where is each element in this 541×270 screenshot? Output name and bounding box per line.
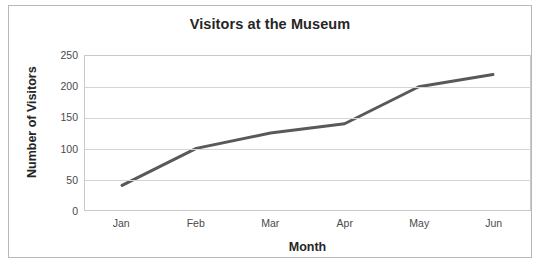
- x-tick-label: Mar: [240, 217, 300, 229]
- x-axis-tick-labels: JanFebMarAprMayJun: [84, 217, 531, 233]
- y-tick-label: 250: [38, 49, 78, 61]
- x-axis-title: Month: [84, 240, 531, 254]
- x-tick-label: Jun: [464, 217, 524, 229]
- y-tick-label: 0: [38, 205, 78, 217]
- y-tick-label: 100: [38, 143, 78, 155]
- line-series: [85, 56, 530, 210]
- x-tick-label: Apr: [315, 217, 375, 229]
- gridline-horizontal: [85, 180, 530, 181]
- gridline-horizontal: [85, 149, 530, 150]
- y-tick-label: 200: [38, 80, 78, 92]
- gridline-horizontal: [85, 87, 530, 88]
- plot-area: [84, 55, 531, 211]
- gridline-horizontal: [85, 212, 530, 213]
- x-tick-label: May: [389, 217, 449, 229]
- gridline-horizontal: [85, 56, 530, 57]
- x-tick-label: Jan: [91, 217, 151, 229]
- y-tick-label: 150: [38, 111, 78, 123]
- y-tick-label: 50: [38, 174, 78, 186]
- x-tick-label: Feb: [166, 217, 226, 229]
- y-axis-tick-labels: 050100150200250: [34, 55, 78, 211]
- chart-title: Visitors at the Museum: [9, 16, 531, 32]
- chart-page-frame: Visitors at the Museum Number of Visitor…: [8, 5, 532, 258]
- series-line: [122, 74, 493, 185]
- gridline-horizontal: [85, 118, 530, 119]
